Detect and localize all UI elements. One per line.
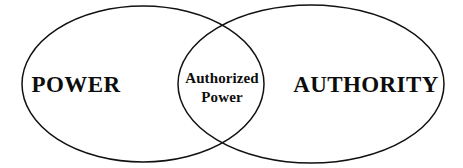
venn-label-intersection-line-2: Power xyxy=(172,88,272,107)
venn-diagram: POWER Authorized Power AUTHORITY xyxy=(0,0,463,168)
venn-label-intersection-line-1: Authorized xyxy=(172,69,272,88)
venn-label-intersection: Authorized Power xyxy=(172,69,272,107)
venn-label-power: POWER xyxy=(0,73,152,98)
venn-label-authority: AUTHORITY xyxy=(290,73,442,98)
